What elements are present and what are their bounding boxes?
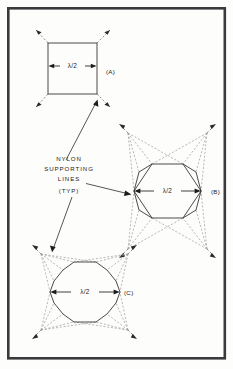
figure-root: λ/2 (A) NYLON SUPPORTING LINES (TYP) <box>0 0 233 369</box>
shape-b-tag: (B) <box>211 188 220 195</box>
shape-a-tag: (A) <box>106 68 115 75</box>
nylon-label-line-2: SUPPORTING <box>44 165 94 172</box>
shape-c-dimension-label: λ/2 <box>80 288 90 295</box>
nylon-label-line-3: LINES <box>58 175 80 182</box>
shape-c-tag: (C) <box>124 289 134 296</box>
nylon-label-line-4: (TYP) <box>59 187 80 194</box>
shape-a-dimension-label: λ/2 <box>68 62 78 69</box>
technical-diagram: λ/2 (A) NYLON SUPPORTING LINES (TYP) <box>0 0 233 369</box>
page-background <box>0 0 233 369</box>
nylon-label-line-1: NYLON <box>56 155 82 162</box>
shape-b-dimension-label: λ/2 <box>163 187 173 194</box>
